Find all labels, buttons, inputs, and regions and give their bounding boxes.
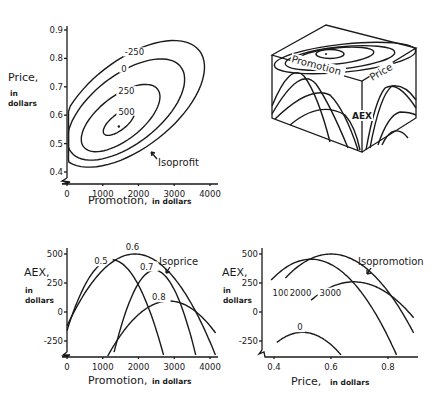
x-tick-label: 0.6: [324, 362, 338, 372]
right-face-curves: [366, 86, 416, 150]
y-tick-label: -250: [239, 336, 258, 346]
isoprice-arrow: [166, 267, 170, 273]
y-tick-label: 0.7: [49, 82, 63, 92]
isoprice-plot: 01000200030004000-2500250500 0.50.60.70.…: [24, 242, 221, 387]
y-axis-label: Price,: [8, 71, 38, 84]
x-axis-label: Price,: [291, 375, 321, 388]
top-optimum-dot: [325, 53, 327, 55]
x-axis-unit: in dollars: [152, 197, 192, 206]
x-tick-label: 0.8: [381, 362, 395, 372]
x-tick-label: 4000: [199, 362, 221, 372]
y-tick-label: -250: [44, 336, 63, 346]
x-axis: [62, 178, 218, 184]
y-axis-unit-1: in: [223, 286, 231, 295]
y-tick-label: 500: [242, 249, 258, 259]
contour-label: 500: [118, 107, 134, 117]
contour-label: -250: [125, 47, 144, 57]
series-label-2000: 2000: [290, 288, 312, 298]
x-axis-unit: in dollars: [330, 378, 370, 387]
isoprofit-annotation: Isoprofit: [158, 157, 199, 168]
y-tick-label: 0: [58, 307, 63, 317]
y-tick-label: 250: [47, 278, 63, 288]
x-tick-label: 2000: [128, 362, 150, 372]
aex-label-3d: AEX: [352, 111, 372, 121]
isoprofit-arrow: [151, 152, 157, 159]
y-tick-label: 500: [47, 249, 63, 259]
top-contour: [316, 50, 344, 59]
optimum-point: [118, 125, 120, 127]
y-tick-label: 0.9: [49, 25, 63, 35]
series-label-0.5: 0.5: [94, 256, 108, 266]
y-axis-unit-1: in: [25, 286, 33, 295]
figure: 010002000300040000.40.50.60.70.80.9 5002…: [0, 0, 442, 408]
x-axis-unit: in dollars: [152, 377, 192, 386]
series-label-0: 0: [297, 322, 302, 332]
y-axis-unit-2: dollars: [223, 296, 252, 305]
y-axis-unit-1: in: [10, 89, 18, 98]
x-axis-label: Promotion,: [88, 194, 147, 207]
isopromotion-plot: 0.40.60.8-2500250500 0100020003000 AEX, …: [222, 248, 424, 388]
isoprofit-plot: 010002000300040000.40.50.60.70.80.9 5002…: [8, 25, 221, 207]
y-tick-label: 0.4: [49, 167, 63, 177]
isopromotion-annotation: Isopromotion: [358, 256, 424, 267]
left-face-curves: [272, 73, 360, 150]
series-label-0.6: 0.6: [126, 242, 140, 252]
series-label-0.8: 0.8: [152, 292, 166, 302]
y-axis-label: AEX,: [222, 266, 248, 279]
y-axis-label: AEX,: [24, 266, 50, 279]
y-tick-label: 0.5: [49, 139, 63, 149]
isoprice-annotation: Isoprice: [159, 256, 198, 267]
y-axis-unit-2: dollars: [8, 99, 37, 108]
x-tick-label: 0: [64, 189, 69, 199]
x-tick-label: 4000: [199, 189, 221, 199]
y-tick-label: 0.8: [49, 53, 63, 63]
3d-surface-diagram: Promotion Price AEX: [272, 25, 417, 152]
isoprofit-contour--250: [69, 41, 205, 168]
y-tick-label: 0: [253, 307, 258, 317]
series-0.7: [114, 270, 196, 355]
x-tick-label: 0: [64, 362, 69, 372]
contour-label: 250: [118, 86, 134, 96]
y-tick-label: 250: [242, 278, 258, 288]
series-label-3000: 3000: [320, 288, 342, 298]
y-axis-unit-2: dollars: [25, 296, 54, 305]
series-0: [277, 332, 341, 355]
x-tick-label: 3000: [163, 362, 185, 372]
x-tick-label: 0.4: [267, 362, 281, 372]
contour-label: 0: [121, 64, 126, 74]
y-tick-label: 0.6: [49, 110, 63, 120]
series-label-0.7: 0.7: [140, 262, 154, 272]
x-tick-label: 1000: [92, 362, 114, 372]
x-axis-label: Promotion,: [88, 374, 147, 387]
